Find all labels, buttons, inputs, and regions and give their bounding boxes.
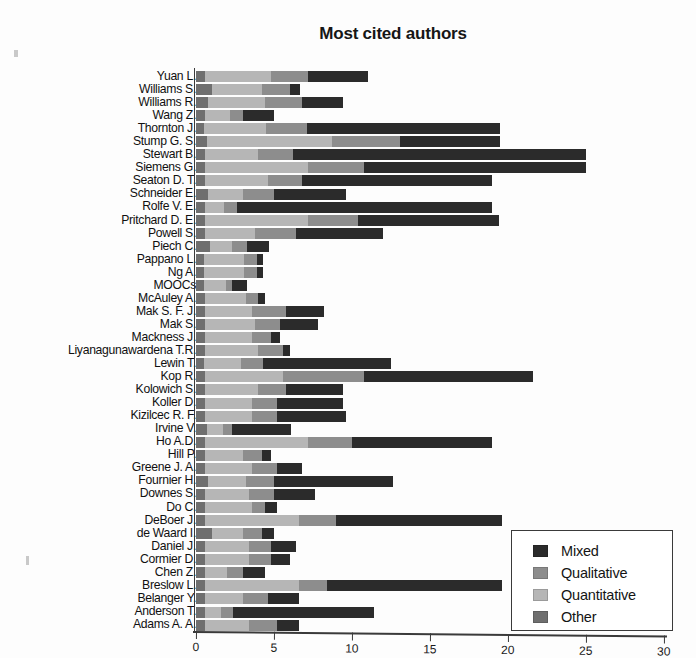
- stacked-bar[interactable]: [196, 332, 280, 343]
- stacked-bar[interactable]: [196, 189, 346, 200]
- legend-item[interactable]: Quantitative: [533, 584, 672, 605]
- bar-segment-quant: [210, 241, 232, 252]
- stacked-bar[interactable]: [196, 463, 302, 474]
- bar-segment-qual: [243, 450, 262, 461]
- stacked-bar[interactable]: [196, 267, 263, 278]
- bar-segment-other: [196, 319, 205, 330]
- y-axis-tick-label: Williams S.: [0, 83, 196, 96]
- bar-segment-other: [196, 202, 205, 213]
- bar-segment-mixed: [243, 110, 274, 121]
- stacked-bar[interactable]: [196, 136, 500, 147]
- legend-label: Other: [561, 609, 596, 625]
- stacked-bar[interactable]: [196, 97, 343, 108]
- bar-segment-qual: [230, 110, 242, 121]
- stacked-bar[interactable]: [196, 293, 265, 304]
- stacked-bar[interactable]: [196, 515, 502, 526]
- bar-segment-quant: [205, 398, 252, 409]
- bar-segment-mixed: [257, 267, 263, 278]
- stacked-bar[interactable]: [196, 71, 368, 82]
- bar-segment-other: [196, 580, 205, 591]
- y-axis-tick-label: Wang Z.: [0, 109, 196, 122]
- bar-segment-quant: [205, 319, 255, 330]
- legend-item[interactable]: Qualitative: [533, 562, 672, 583]
- y-axis-tick-label: Do C.: [0, 501, 196, 514]
- stacked-bar[interactable]: [196, 215, 499, 226]
- bar-segment-quant: [205, 71, 271, 82]
- bar-segment-quant: [205, 437, 308, 448]
- stacked-bar[interactable]: [196, 567, 265, 578]
- stacked-bar[interactable]: [196, 149, 586, 160]
- stacked-bar[interactable]: [196, 489, 315, 500]
- bar-segment-mixed: [262, 528, 274, 539]
- stacked-bar[interactable]: [196, 162, 586, 173]
- bar-segment-other: [196, 215, 205, 226]
- bar-segment-other: [196, 607, 205, 618]
- stacked-bar[interactable]: [196, 528, 274, 539]
- y-axis-tick-label: Stewart B.: [0, 148, 196, 161]
- stacked-bar[interactable]: [196, 607, 374, 618]
- stacked-bar[interactable]: [196, 398, 343, 409]
- bar-segment-mixed: [296, 228, 383, 239]
- x-axis-tick: [664, 636, 665, 644]
- bar-segment-qual: [252, 306, 286, 317]
- legend-swatch-other-icon: [533, 611, 548, 623]
- stacked-bar[interactable]: [196, 306, 324, 317]
- bar-segment-mixed: [308, 71, 367, 82]
- stacked-bar[interactable]: [196, 593, 299, 604]
- bar-segment-qual: [221, 607, 233, 618]
- stacked-bar[interactable]: [196, 123, 500, 134]
- bar-segment-qual: [271, 71, 308, 82]
- stacked-bar[interactable]: [196, 371, 533, 382]
- stacked-bar[interactable]: [196, 411, 346, 422]
- bar-segment-qual: [308, 437, 352, 448]
- bar-segment-quant: [205, 345, 258, 356]
- y-axis-tick-label: Powell S.: [0, 227, 196, 240]
- bar-segment-other: [196, 332, 205, 343]
- stacked-bar[interactable]: [196, 358, 391, 369]
- stacked-bar[interactable]: [196, 84, 300, 95]
- stacked-bar[interactable]: [196, 202, 492, 213]
- stacked-bar[interactable]: [196, 345, 290, 356]
- stacked-bar[interactable]: [196, 424, 291, 435]
- stacked-bar[interactable]: [196, 554, 290, 565]
- legend-item[interactable]: Other: [533, 606, 672, 627]
- bar-segment-qual: [224, 202, 236, 213]
- bar-segment-other: [196, 384, 205, 395]
- stacked-bar[interactable]: [196, 450, 271, 461]
- stacked-bar[interactable]: [196, 384, 343, 395]
- stacked-bar[interactable]: [196, 228, 383, 239]
- stacked-bar[interactable]: [196, 254, 263, 265]
- bar-segment-mixed: [277, 620, 299, 631]
- y-axis-tick-label: Anderson T.: [0, 605, 196, 618]
- y-axis-tick-label: Hill P.: [0, 448, 196, 461]
- chart-legend: Mixed Qualitative Quantitative Other: [511, 530, 673, 631]
- stacked-bar[interactable]: [196, 476, 393, 487]
- bar-segment-mixed: [293, 149, 586, 160]
- stacked-bar[interactable]: [196, 280, 247, 291]
- bar-segment-qual: [332, 136, 401, 147]
- stacked-bar[interactable]: [196, 175, 492, 186]
- stacked-bar[interactable]: [196, 437, 492, 448]
- bar-segment-qual: [258, 345, 283, 356]
- stacked-bar[interactable]: [196, 319, 318, 330]
- bar-segment-other: [196, 149, 205, 160]
- x-axis-tick-label: 25: [579, 644, 592, 658]
- bar-segment-other: [196, 136, 207, 147]
- bar-segment-quant: [205, 306, 252, 317]
- stacked-bar[interactable]: [196, 620, 299, 631]
- stacked-bar[interactable]: [196, 241, 269, 252]
- bar-segment-quant: [205, 541, 249, 552]
- bar-segment-mixed: [243, 567, 265, 578]
- stacked-bar[interactable]: [196, 110, 274, 121]
- bar-segment-mixed: [263, 358, 391, 369]
- bar-segment-other: [196, 489, 205, 500]
- legend-swatch-quantitative-icon: [533, 589, 548, 601]
- bar-segment-mixed: [336, 515, 501, 526]
- legend-swatch-mixed-icon: [533, 545, 548, 557]
- stacked-bar[interactable]: [196, 502, 277, 513]
- bar-segment-qual: [249, 620, 277, 631]
- stacked-bar[interactable]: [196, 580, 502, 591]
- stacked-bar[interactable]: [196, 541, 296, 552]
- legend-item[interactable]: Mixed: [533, 540, 672, 561]
- bar-segment-quant: [204, 254, 245, 265]
